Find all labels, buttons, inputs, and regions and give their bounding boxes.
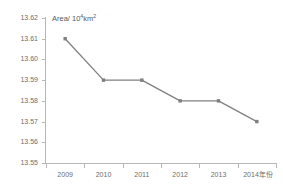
data-point-marker [63,37,66,40]
data-point-marker [255,120,258,123]
data-point-marker [217,99,220,102]
line-chart: Area/ 104km2 13.6213.6113.6013.5913.5813… [0,0,283,192]
series-line [65,39,257,122]
series-layer [0,0,283,192]
data-point-marker [140,78,143,81]
data-point-marker [178,99,181,102]
data-point-marker [102,78,105,81]
